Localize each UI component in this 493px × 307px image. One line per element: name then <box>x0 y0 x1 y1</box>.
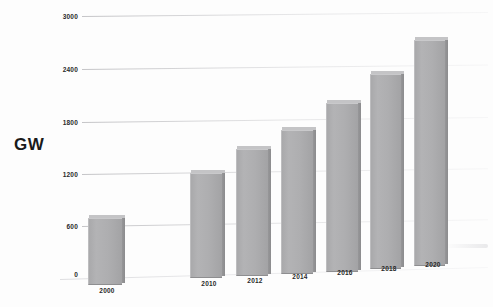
bar-front-face-2010 <box>190 173 222 278</box>
bar-front-face-2020 <box>414 40 445 266</box>
bar-front-face-2000 <box>88 218 122 285</box>
x-tick-label-2010: 2010 <box>201 280 216 287</box>
bar-front-face-2016 <box>326 103 358 272</box>
bar-2018[interactable] <box>370 74 400 267</box>
bar-front-face-2012 <box>236 149 268 276</box>
bar-2000[interactable] <box>88 218 121 283</box>
y-tick-label-0: 0 <box>0 271 78 278</box>
y-tick-label-600: 600 <box>0 223 78 230</box>
bar-2016[interactable] <box>326 103 357 270</box>
bar-2010[interactable] <box>190 173 221 276</box>
x-tick-label-2020: 2020 <box>425 261 440 268</box>
floor-shadow <box>444 244 488 248</box>
y-tick-label-2400: 2400 <box>0 66 78 73</box>
x-tick-label-2000: 2000 <box>99 287 114 294</box>
bar-2020[interactable] <box>414 40 444 264</box>
bar-2012[interactable] <box>236 149 267 274</box>
y-tick-label-1800: 1800 <box>0 119 78 126</box>
y-tick-label-3000: 3000 <box>0 13 78 20</box>
gridline-3000 <box>82 12 488 17</box>
x-tick-label-2016: 2016 <box>337 269 352 276</box>
bar-2014[interactable] <box>281 130 312 272</box>
bar-chart: GW 3000 2400 1800 1200 600 0 <box>0 0 493 307</box>
y-tick-label-1200: 1200 <box>0 171 78 178</box>
x-tick-label-2012: 2012 <box>247 277 262 284</box>
x-tick-label-2014: 2014 <box>292 273 307 280</box>
y-axis-title: GW <box>14 136 44 153</box>
x-tick-label-2018: 2018 <box>381 265 396 272</box>
bar-front-face-2018 <box>370 74 401 269</box>
bar-front-face-2014 <box>281 130 313 274</box>
